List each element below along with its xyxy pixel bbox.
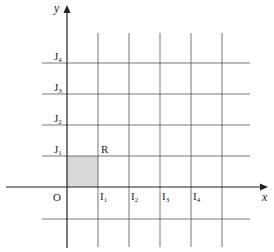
shaded-region-r (67, 156, 98, 187)
x-axis-label: x (261, 190, 268, 204)
y-tick-label-j4: J4 (54, 50, 62, 64)
y-tick-label-j3: J3 (54, 81, 62, 95)
region-label-r: R (101, 143, 109, 155)
y-axis-label: y (53, 1, 60, 15)
y-tick-label-j1: J1 (54, 143, 62, 157)
x-tick-label-i3: I3 (162, 190, 170, 204)
y-axis-arrow-icon (64, 5, 71, 13)
horizontal-gridlines (42, 63, 250, 219)
x-tick-label-i2: I2 (131, 190, 139, 204)
axes (6, 12, 262, 248)
x-tick-label-i1: I1 (100, 190, 108, 204)
y-tick-label-j2: J2 (54, 112, 62, 126)
vertical-gridlines (98, 33, 222, 247)
coordinate-grid-diagram: y x O I1 I2 I3 I4 J1 J2 J3 J4 R (0, 0, 274, 252)
origin-label: O (53, 191, 61, 203)
x-tick-label-i4: I4 (193, 190, 201, 204)
